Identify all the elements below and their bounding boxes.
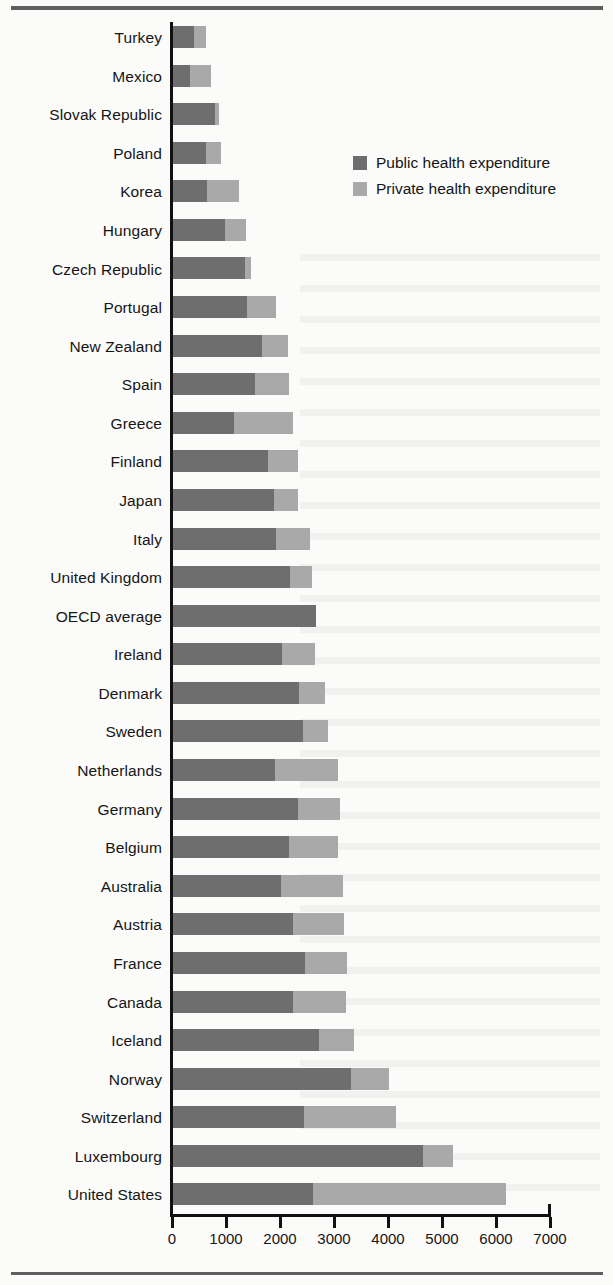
bar-segment-public <box>173 450 268 472</box>
x-axis-tick <box>225 1217 228 1228</box>
x-axis-tick <box>441 1217 444 1228</box>
bar-segment-public <box>173 65 190 87</box>
category-label: France <box>0 955 162 972</box>
x-axis-tick-label: 4000 <box>371 1230 404 1248</box>
chart-row: Czech Republic <box>0 249 613 288</box>
stacked-bar <box>173 682 325 704</box>
legend-label-public: Public health expenditure <box>376 154 550 171</box>
bar-segment-private <box>274 489 298 511</box>
category-label: Australia <box>0 878 162 895</box>
category-label: Japan <box>0 492 162 509</box>
chart-row: Spain <box>0 365 613 404</box>
bar-segment-private <box>245 257 251 279</box>
chart-row: Netherlands <box>0 751 613 790</box>
category-label: OECD average <box>0 608 162 625</box>
bar-segment-private <box>289 836 338 858</box>
bar-segment-public <box>173 412 234 434</box>
bar-segment-private <box>194 26 206 48</box>
bar-segment-private <box>281 875 343 897</box>
bar-segment-public <box>173 1106 304 1128</box>
page-bottom-rule <box>11 1272 603 1275</box>
bar-segment-public <box>173 682 299 704</box>
bar-segment-private <box>313 1183 506 1205</box>
x-axis-tick <box>387 1217 390 1228</box>
category-label: Germany <box>0 801 162 818</box>
x-axis-tick-label: 3000 <box>317 1230 350 1248</box>
bar-segment-private <box>225 219 246 241</box>
bar-segment-private <box>275 759 338 781</box>
category-label: Norway <box>0 1071 162 1088</box>
category-label: Iceland <box>0 1032 162 1049</box>
bar-segment-private <box>276 528 310 550</box>
x-axis-tick-label: 5000 <box>425 1230 458 1248</box>
chart-row: Canada <box>0 983 613 1022</box>
bar-segment-public <box>173 335 262 357</box>
chart-row: Iceland <box>0 1021 613 1060</box>
chart-row: OECD average <box>0 597 613 636</box>
category-label: Slovak Republic <box>0 106 162 123</box>
chart-row: Denmark <box>0 674 613 713</box>
bar-segment-private <box>298 798 340 820</box>
bar-segment-private <box>319 1029 354 1051</box>
stacked-bar <box>173 605 316 627</box>
stacked-bar <box>173 798 340 820</box>
bar-segment-public <box>173 720 303 742</box>
bar-segment-public <box>173 1183 313 1205</box>
category-label: Denmark <box>0 685 162 702</box>
bar-segment-private <box>247 296 276 318</box>
x-axis-ticks: 01000200030004000500060007000 <box>0 1217 613 1257</box>
stacked-bar <box>173 296 276 318</box>
stacked-bar <box>173 913 344 935</box>
chart-row: Switzerland <box>0 1098 613 1137</box>
bar-segment-public <box>173 836 289 858</box>
chart-row: Germany <box>0 790 613 829</box>
legend-label-private: Private health expenditure <box>376 180 556 197</box>
stacked-bar <box>173 1029 354 1051</box>
stacked-bar <box>173 720 328 742</box>
chart-row: Australia <box>0 867 613 906</box>
x-axis-tick <box>549 1217 552 1228</box>
page-top-rule <box>11 6 603 10</box>
stacked-bar <box>173 1145 453 1167</box>
bar-segment-private <box>206 142 220 164</box>
bar-segment-private <box>293 913 343 935</box>
stacked-bar <box>173 875 343 897</box>
chart-row: Mexico <box>0 57 613 96</box>
bar-segment-public <box>173 219 225 241</box>
figure-page: TurkeyMexicoSlovak RepublicPolandKoreaHu… <box>0 0 613 1285</box>
bar-segment-public <box>173 759 275 781</box>
category-label: United States <box>0 1186 162 1203</box>
stacked-bar-chart: TurkeyMexicoSlovak RepublicPolandKoreaHu… <box>0 18 613 1263</box>
chart-row: Turkey <box>0 18 613 57</box>
chart-row: Hungary <box>0 211 613 250</box>
bar-segment-private <box>190 65 212 87</box>
x-axis-tick-label: 2000 <box>263 1230 296 1248</box>
stacked-bar <box>173 142 221 164</box>
category-label: Korea <box>0 183 162 200</box>
category-label: Italy <box>0 531 162 548</box>
stacked-bar <box>173 180 239 202</box>
bar-segment-public <box>173 489 274 511</box>
x-axis-tick-label: 0 <box>168 1230 176 1248</box>
stacked-bar <box>173 1068 389 1090</box>
stacked-bar <box>173 103 219 125</box>
bar-segment-public <box>173 991 293 1013</box>
category-label: Austria <box>0 916 162 933</box>
bar-segment-private <box>305 952 347 974</box>
bar-segment-public <box>173 1145 423 1167</box>
chart-row: Japan <box>0 481 613 520</box>
stacked-bar <box>173 528 310 550</box>
bar-segment-public <box>173 566 290 588</box>
category-label: Netherlands <box>0 762 162 779</box>
bar-segment-public <box>173 257 245 279</box>
stacked-bar <box>173 836 338 858</box>
bar-segment-private <box>303 720 328 742</box>
legend-swatch-private-icon <box>353 182 367 196</box>
stacked-bar <box>173 412 293 434</box>
category-label: Poland <box>0 145 162 162</box>
category-label: Czech Republic <box>0 261 162 278</box>
chart-row: United States <box>0 1175 613 1214</box>
x-axis-tick-label: 6000 <box>479 1230 512 1248</box>
stacked-bar <box>173 489 298 511</box>
bar-segment-private <box>255 373 288 395</box>
